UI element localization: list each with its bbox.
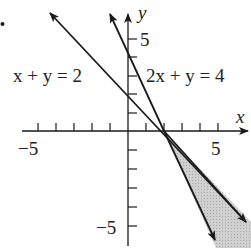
x-axis <box>22 123 248 131</box>
equation-label-line2: 2x + y = 4 <box>146 65 225 86</box>
x-tick-label-neg5: −5 <box>18 138 38 159</box>
x-tick-label-5: 5 <box>211 138 221 159</box>
y-axis-label: y <box>136 2 147 23</box>
y-tick-label-5: 5 <box>140 29 150 50</box>
x-axis-label: x <box>235 106 245 127</box>
problem-marker-dot <box>1 22 5 26</box>
y-tick-label-neg5: −5 <box>96 217 116 238</box>
y-axis-ticks <box>128 39 137 226</box>
graph-canvas: y x 5 −5 −5 5 x + y = 2 2x + y = 4 <box>0 0 251 248</box>
equation-label-line1: x + y = 2 <box>13 65 82 86</box>
y-axis <box>128 14 137 246</box>
